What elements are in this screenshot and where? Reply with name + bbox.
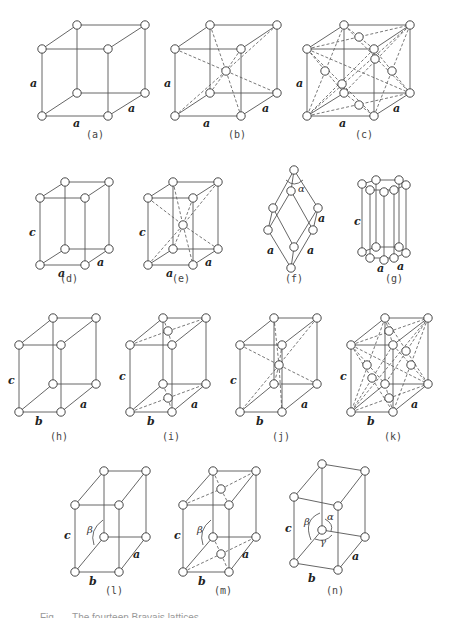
axis-label-c: c — [64, 529, 71, 542]
lattice-point — [287, 264, 295, 272]
lattice-point — [179, 501, 187, 509]
lattice-point — [381, 380, 389, 388]
lattice-point — [314, 204, 322, 212]
lattice-caption: (i) — [162, 431, 180, 442]
lattice-edge — [322, 530, 365, 537]
lattice-point — [318, 526, 326, 534]
lattice-point — [363, 361, 371, 369]
axis-label-a: a — [296, 77, 303, 90]
lattice-point — [209, 533, 217, 541]
lattice-point — [49, 314, 57, 322]
lattice-point — [209, 467, 217, 475]
lattice-point — [164, 394, 172, 402]
lattice-point — [217, 485, 225, 493]
axis-label-b: b — [308, 572, 316, 585]
lattice-point — [225, 568, 233, 576]
lattice-point — [236, 341, 244, 349]
lattice-f: aaaα(f) — [264, 166, 325, 284]
lattice-k: cba(k) — [340, 314, 432, 442]
lattice-point — [318, 460, 326, 468]
lattice-b: aaa(b) — [164, 21, 281, 140]
axis-label-c: c — [340, 370, 347, 383]
lattice-edge — [294, 464, 322, 497]
lattice-point — [321, 67, 329, 75]
lattice-point — [81, 194, 89, 202]
lattice-edge — [19, 384, 53, 412]
lattice-point — [100, 467, 108, 475]
lattice-point — [142, 533, 150, 541]
lattice-point — [303, 45, 311, 53]
axis-label-b: b — [256, 415, 264, 428]
lattice-diagonal — [175, 49, 226, 71]
axis-label-a: a — [242, 548, 249, 561]
lattice-caption: (k) — [384, 431, 402, 442]
lattice-edge — [108, 93, 145, 116]
lattice-diagonal — [226, 71, 241, 116]
lattice-point — [361, 467, 369, 475]
lattice-point — [225, 501, 233, 509]
lattice-point — [159, 380, 167, 388]
lattice-point — [402, 347, 410, 355]
lattice-edge — [273, 208, 294, 247]
axis-label-a: a — [128, 102, 135, 115]
lattice-point — [270, 314, 278, 322]
lattice-point — [36, 261, 44, 269]
axis-label-b: b — [367, 415, 375, 428]
lattice-point — [347, 341, 355, 349]
angle-label: α — [298, 183, 305, 194]
lattice-point — [15, 341, 23, 349]
lattice-point — [355, 101, 363, 109]
lattice-diagonal — [168, 384, 206, 398]
lattice-a: aaa(a) — [30, 21, 149, 140]
lattice-point — [347, 408, 355, 416]
lattice-point — [275, 361, 283, 369]
lattice-edge — [374, 25, 410, 49]
lattice-diagonal — [183, 182, 218, 225]
lattice-point — [214, 178, 222, 186]
lattice-edge — [183, 471, 213, 505]
lattice-m: cbaβ(m) — [174, 467, 260, 596]
lattice-point — [38, 112, 46, 120]
lattice-point — [81, 261, 89, 269]
axis-label-a: a — [397, 260, 404, 273]
lattice-point — [126, 408, 134, 416]
lattice-point — [366, 254, 374, 262]
lattice-point — [380, 188, 388, 196]
lattice-point — [389, 408, 397, 416]
lattice-caption: (m) — [214, 585, 232, 596]
axis-label-b: b — [89, 575, 97, 588]
lattice-edge — [42, 93, 77, 116]
lattice-edge — [307, 25, 344, 49]
lattice-point — [100, 533, 108, 541]
lattice-point — [115, 501, 123, 509]
lattice-point — [92, 314, 100, 322]
lattice-point — [189, 261, 197, 269]
lattice-point — [61, 178, 69, 186]
lattice-point — [237, 112, 245, 120]
lattice-point — [142, 467, 150, 475]
lattice-point — [424, 380, 432, 388]
lattice-caption: (l) — [105, 585, 123, 596]
lattice-diagonal — [130, 398, 168, 412]
lattice-edge — [42, 25, 77, 49]
lattice-diagonal — [226, 25, 277, 71]
lattice-point — [273, 89, 281, 97]
lattice-diagonal — [148, 225, 183, 265]
axis-label-c: c — [285, 522, 292, 535]
lattice-point — [313, 314, 321, 322]
lattice-point — [57, 341, 65, 349]
lattice-point — [402, 181, 410, 189]
axis-label-a: a — [377, 262, 384, 275]
axis-label-c: c — [29, 226, 36, 239]
lattice-diagonal — [183, 554, 221, 572]
lattice-edge — [130, 318, 163, 345]
lattice-point — [73, 89, 81, 97]
lattice-point — [73, 21, 81, 29]
lattice-edge — [291, 191, 313, 230]
angle-label: β — [86, 524, 93, 535]
lattice-point — [237, 45, 245, 53]
lattice-point — [71, 501, 79, 509]
lattice-edge — [307, 93, 344, 116]
axis-label-c: c — [354, 215, 361, 228]
lattice-point — [179, 221, 187, 229]
